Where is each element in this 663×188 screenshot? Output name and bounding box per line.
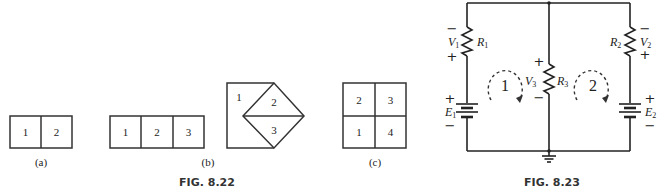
part-b-row-cell-3: 3 [186,126,192,138]
e1-minus-sign: − [445,118,456,133]
ground-icon [542,151,556,162]
loop-2-label: 2 [589,77,597,94]
r3-label: R3 [556,74,568,89]
figure-canvas: 1 2 (a) 1 2 3 1 2 3 (b) 2 3 1 4 (c) FIG.… [0,0,663,188]
loop-2-arrowhead-icon [602,95,609,103]
resistor-r2-icon [625,27,635,56]
loop-1-label: 1 [501,77,509,94]
resistor-r3-icon [544,64,554,94]
part-c-grid [343,83,406,148]
figure-8-22 [10,83,406,148]
part-b-diamond-cell-1: 1 [236,91,242,103]
e2-plus-sign: + [645,91,656,106]
v3-minus-sign: − [534,90,545,105]
part-b-row-cell-1: 1 [123,126,129,138]
part-a-cell-2: 2 [54,126,60,138]
fig-8-23-caption: FIG. 8.23 [524,176,580,188]
loop-1-arrowhead-icon [516,95,523,103]
part-a-cell-1: 1 [23,126,29,138]
part-b-diamond-cell-2: 2 [271,96,277,108]
fig-8-22-caption: FIG. 8.22 [179,176,235,188]
r2-label: R2 [609,35,621,50]
v1-plus-sign: + [447,49,458,64]
e1-plus-sign: + [445,91,456,106]
v1-label: V1 [448,35,459,50]
part-c-label: (c) [369,156,382,169]
part-a-label: (a) [35,156,48,169]
top-junction-dot [547,1,551,5]
part-b-row-cell-2: 2 [154,126,160,138]
part-b-label: (b) [202,156,215,169]
circuit-wires [467,3,630,151]
v3-plus-sign: + [534,54,545,69]
e2-minus-sign: − [645,118,656,133]
resistor-r1-icon [462,27,472,56]
v1-minus-sign: − [447,21,458,36]
part-c-cell-3: 3 [388,94,394,106]
battery-e1-icon [456,104,478,117]
part-c-cell-2: 2 [356,94,362,106]
part-c-cell-1: 1 [356,126,362,138]
part-c-cell-4: 4 [388,126,394,138]
part-a-grid [10,116,72,148]
v3-label: V3 [525,74,536,89]
battery-e2-icon [619,104,641,117]
v2-plus-sign: + [640,47,651,62]
part-b-diamond-cell-3: 3 [271,124,277,136]
v2-minus-sign: − [640,21,651,36]
r1-label: R1 [476,35,488,50]
